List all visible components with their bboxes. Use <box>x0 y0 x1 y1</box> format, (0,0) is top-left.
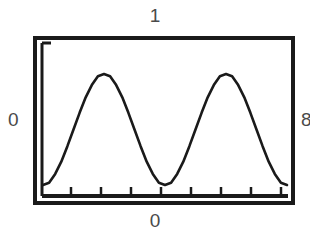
sine-curve <box>43 74 287 185</box>
plot-area <box>0 0 310 239</box>
chart-figure: 1 0 8 0 <box>0 0 310 239</box>
x-axis-tick-group <box>71 187 281 194</box>
